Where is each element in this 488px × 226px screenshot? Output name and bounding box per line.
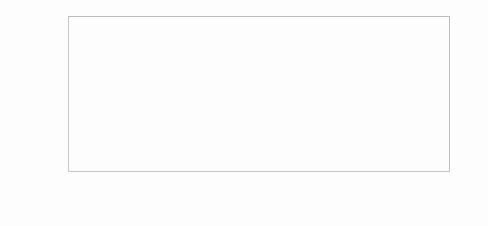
legend-swatch-turnover xyxy=(296,74,309,79)
plot-area xyxy=(68,16,450,172)
chart-legend xyxy=(296,54,316,84)
legend-item-turnover xyxy=(296,69,316,84)
chart-container xyxy=(0,0,488,226)
area-chart-plot xyxy=(68,16,450,172)
y-axis xyxy=(0,0,68,226)
legend-swatch-profit xyxy=(296,59,309,64)
legend-item-profit xyxy=(296,54,316,69)
x-axis xyxy=(68,172,450,226)
